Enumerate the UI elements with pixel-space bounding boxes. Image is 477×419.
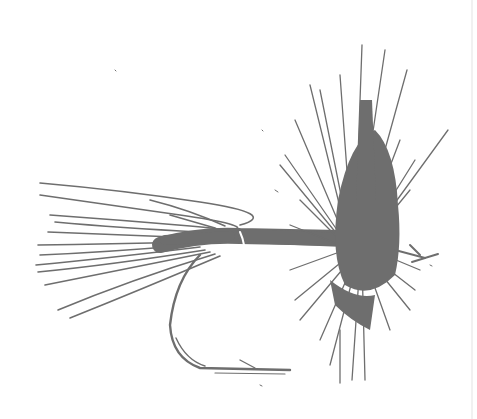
tail-fibers [36, 183, 253, 318]
image-canvas [0, 0, 477, 419]
hook-bend [170, 255, 290, 374]
hook-eye [395, 245, 438, 262]
fly-illustration [0, 0, 477, 419]
